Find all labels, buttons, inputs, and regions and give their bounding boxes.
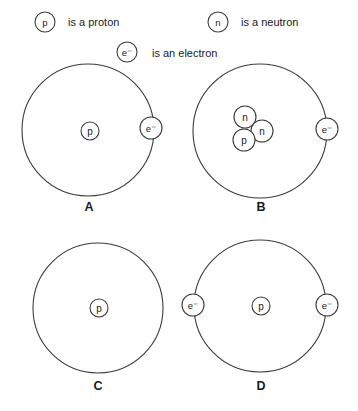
legend-item-electron: e⁻is an electron <box>117 42 217 62</box>
panel-d: pe⁻e⁻D <box>182 240 338 393</box>
panel-b: nnpe⁻B <box>193 64 338 214</box>
legend-item-neutron: nis a neutron <box>208 12 298 32</box>
legend-description-2: is an electron <box>152 47 217 59</box>
electron-label: e⁻ <box>188 300 198 311</box>
panel-label-d: D <box>256 379 265 393</box>
atomic-models-figure: pis a protonnis a neutrone⁻is an electro… <box>0 0 358 411</box>
diagram-panels: pe⁻Annpe⁻BpCpe⁻e⁻D <box>22 64 338 393</box>
panel-c: pC <box>33 243 163 393</box>
legend-item-proton: pis a proton <box>35 12 119 32</box>
electron-label: e⁻ <box>322 300 332 311</box>
panel-a: pe⁻A <box>22 64 162 214</box>
panel-label-a: A <box>84 200 93 214</box>
proton-symbol-text: p <box>42 17 47 28</box>
proton-label: p <box>87 126 93 137</box>
electron-label: e⁻ <box>322 124 332 135</box>
proton-label: p <box>96 303 102 314</box>
neutron-symbol-text: n <box>215 17 220 28</box>
legend-description-1: is a neutron <box>241 16 298 28</box>
proton-label: p <box>241 135 247 146</box>
electron-symbol-text: e⁻ <box>122 47 132 58</box>
neutron-label: n <box>259 126 265 137</box>
electron-label: e⁻ <box>146 123 156 134</box>
proton-label: p <box>258 301 264 312</box>
panel-label-c: C <box>93 379 102 393</box>
legend: pis a protonnis a neutrone⁻is an electro… <box>35 12 298 62</box>
legend-description-0: is a proton <box>68 16 119 28</box>
panel-label-b: B <box>256 200 265 214</box>
atomic-diagram-canvas: pis a protonnis a neutrone⁻is an electro… <box>0 0 358 411</box>
neutron-label: n <box>242 112 248 123</box>
